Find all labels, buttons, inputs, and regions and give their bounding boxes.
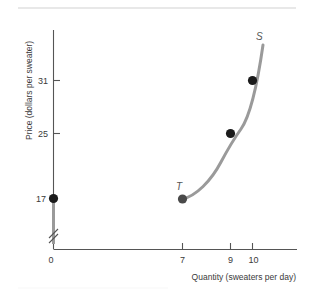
supply-curve-figure: 31 25 17 0 7 9 10 S T Quantity (sweaters… [0,0,312,293]
data-point-9-25 [226,129,235,138]
x-tick-label-9: 9 [228,255,233,265]
x-tick-label-7: 7 [180,255,185,265]
data-point-t [178,194,187,203]
supply-curve-plot: 31 25 17 0 7 9 10 S T Quantity (sweaters… [0,0,312,293]
y-tick-label-31: 31 [38,76,48,86]
supply-curve-path [183,45,264,199]
y-tick-label-17: 17 [36,194,46,204]
x-tick-label-10: 10 [248,255,258,265]
data-point-10-31 [248,76,257,85]
y-tick-label-25: 25 [38,129,48,139]
supply-curve-label: S [256,31,263,42]
x-axis-label: Quantity (sweaters per day) [192,272,297,282]
point-t-label: T [176,181,183,192]
data-point-price-17-axis [49,194,58,203]
y-axis-label: Price (dollars per sweater) [24,41,34,140]
origin-label: 0 [48,255,53,265]
